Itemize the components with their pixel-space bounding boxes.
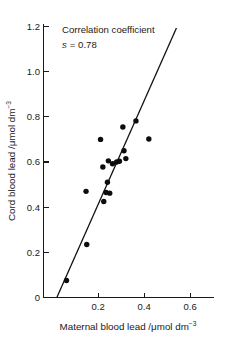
scatter-plot-figure: 1.2 1.0 0.8 0.6 0.4 0.2 0 0.2 0.4 0.6 Co…	[0, 0, 230, 345]
data-point	[84, 242, 89, 247]
axes-group	[44, 24, 215, 298]
data-point	[146, 136, 151, 141]
x-axis-title-group: Maternal blood lead /μmol dm−3	[60, 320, 197, 332]
data-point	[123, 156, 128, 161]
x-tick-marks	[98, 293, 190, 298]
y-tick-label: 0	[35, 292, 40, 303]
y-tick-label: 1.0	[27, 66, 40, 77]
y-tick-marks	[44, 27, 49, 253]
correlation-value: = 0.78	[70, 39, 97, 50]
x-tick-labels: 0.2 0.4 0.6	[91, 301, 196, 312]
data-point	[107, 190, 112, 195]
data-point	[64, 278, 69, 283]
x-tick-label: 0.2	[91, 301, 104, 312]
data-point	[121, 148, 126, 153]
data-point	[98, 137, 103, 142]
y-tick-labels: 1.2 1.0 0.8 0.6 0.4 0.2 0	[27, 21, 40, 303]
data-point	[105, 180, 110, 185]
x-axis-title-exponent: −3	[189, 320, 197, 327]
annotation-group: Correlation coefficient s= 0.78	[62, 24, 155, 50]
x-axis-title: Maternal blood lead /μmol dm−3	[60, 320, 197, 332]
data-points-group	[64, 118, 152, 283]
chart-canvas: 1.2 1.0 0.8 0.6 0.4 0.2 0 0.2 0.4 0.6 Co…	[0, 0, 230, 345]
y-axis-title-main: Cord blood lead /	[6, 146, 17, 221]
axis-lines	[44, 24, 215, 298]
x-axis-title-main: Maternal blood lead /	[60, 321, 152, 332]
y-axis-title-group: Cord blood lead /μmol dm−3	[5, 101, 17, 221]
y-axis-title-exponent: −3	[5, 101, 12, 109]
annotation-line-2: s= 0.78	[62, 39, 97, 50]
y-axis-title-unit: μmol dm	[6, 109, 17, 147]
x-tick-label: 0.6	[183, 301, 196, 312]
data-point	[120, 124, 125, 129]
data-point	[133, 118, 138, 123]
data-point	[100, 164, 105, 169]
x-axis-title-unit: μmol dm	[151, 321, 189, 332]
y-tick-label: 0.6	[27, 156, 40, 167]
data-point	[117, 159, 122, 164]
correlation-symbol: s	[62, 39, 67, 50]
data-point	[101, 199, 106, 204]
y-tick-label: 0.8	[27, 111, 40, 122]
y-tick-label: 1.2	[27, 21, 40, 32]
annotation-line-1: Correlation coefficient	[62, 24, 155, 35]
y-tick-label: 0.2	[27, 247, 40, 258]
data-point	[83, 189, 88, 194]
x-tick-label: 0.4	[137, 301, 150, 312]
y-axis-title: Cord blood lead /μmol dm−3	[5, 101, 17, 221]
y-tick-label: 0.4	[27, 202, 40, 213]
